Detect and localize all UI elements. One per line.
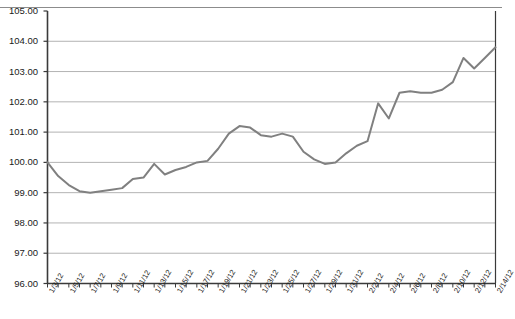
y-tick-label: 101.00 [2,127,38,137]
gridlines [48,41,496,253]
y-tick-label: 100.00 [2,157,38,167]
y-tick-label: 99.00 [2,188,38,198]
y-tick-label: 103.00 [2,67,38,77]
y-tick-label: 98.00 [2,218,38,228]
y-tick-label: 96.00 [2,279,38,289]
data-series-line [48,47,496,192]
y-tick-label: 97.00 [2,248,38,258]
y-tick-label: 104.00 [2,36,38,46]
y-tick-label: 102.00 [2,97,38,107]
y-tick-label: 105.00 [2,6,38,16]
